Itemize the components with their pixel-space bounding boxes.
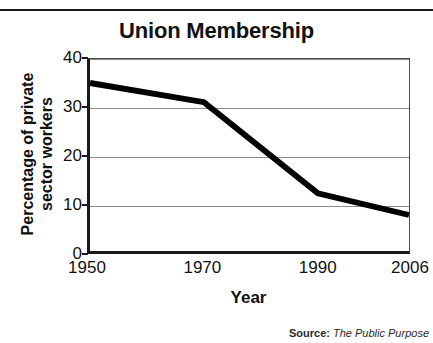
y-axis-tickmark-30 bbox=[82, 106, 88, 108]
y-axis-tick-30: 30 bbox=[42, 97, 82, 117]
x-axis-tick-2006: 2006 bbox=[375, 258, 433, 278]
chart-title: Union Membership bbox=[0, 18, 433, 44]
x-axis-tick-labels: 1950197019902006 bbox=[87, 258, 410, 284]
y-axis-tick-20: 20 bbox=[42, 146, 82, 166]
y-axis-tick-10: 10 bbox=[42, 195, 82, 215]
source-text: The Public Purpose bbox=[333, 327, 429, 339]
top-divider bbox=[0, 9, 433, 11]
x-axis-tick-1970: 1970 bbox=[167, 258, 237, 278]
source-note: Source: The Public Purpose bbox=[289, 327, 429, 339]
x-axis-title: Year bbox=[87, 288, 410, 308]
plot-area bbox=[87, 58, 410, 254]
y-axis-tickmark-0 bbox=[82, 253, 88, 255]
y-axis-tickmark-20 bbox=[82, 155, 88, 157]
data-line-series bbox=[90, 59, 409, 251]
y-axis-tickmark-40 bbox=[82, 57, 88, 59]
source-label: Source: bbox=[289, 327, 330, 339]
y-axis-tick-labels: 010203040 bbox=[38, 58, 82, 254]
y-axis-tickmark-10 bbox=[82, 204, 88, 206]
y-axis-tick-40: 40 bbox=[42, 48, 82, 68]
x-axis-tick-1950: 1950 bbox=[52, 258, 122, 278]
x-axis-tick-1990: 1990 bbox=[283, 258, 353, 278]
y-axis-title-line-1: Percentage of private bbox=[19, 73, 38, 236]
